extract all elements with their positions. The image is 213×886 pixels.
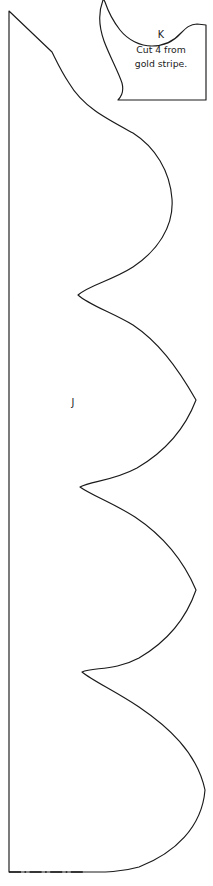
piece-j-label: J	[71, 397, 75, 408]
pattern-canvas: J K Cut 4 from gold stripe.	[0, 0, 213, 886]
piece-k-instruction-line-2: gold stripe.	[135, 58, 188, 69]
piece-k-label: K	[158, 29, 165, 40]
piece-j-outline[interactable]	[9, 11, 205, 872]
pattern-sheet: J K Cut 4 from gold stripe.	[0, 0, 213, 886]
piece-k-instruction-line-1: Cut 4 from	[136, 44, 186, 55]
pattern-piece-k[interactable]: K Cut 4 from gold stripe.	[100, 0, 206, 100]
pattern-piece-j[interactable]: J	[9, 11, 205, 872]
